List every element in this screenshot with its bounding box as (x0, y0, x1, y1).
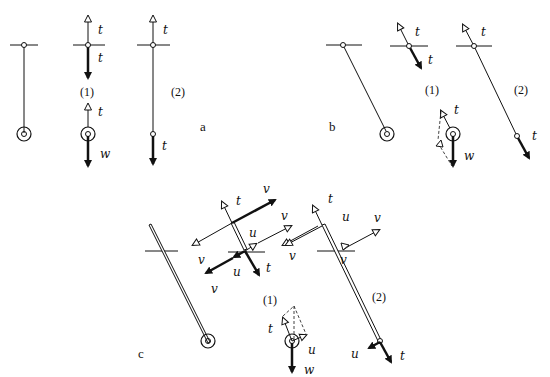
label-t: t (400, 350, 405, 362)
label-v: v (198, 254, 205, 266)
label-t: t (266, 262, 271, 274)
sub-label-c2: (2) (372, 291, 386, 303)
label-u: u (342, 211, 350, 223)
panel-label-a: a (200, 120, 206, 133)
label-w: w (304, 364, 314, 376)
label-t: t (163, 24, 168, 36)
label-t: t (162, 140, 167, 152)
label-v: v (263, 183, 270, 195)
diagram-canvas (0, 0, 550, 377)
label-t: t (481, 26, 486, 38)
label-w: w (464, 150, 474, 162)
sub-label-a2: (2) (171, 86, 185, 98)
label-v: v (289, 250, 296, 262)
label-t: t (454, 104, 459, 116)
label-v: v (340, 254, 347, 266)
pendulum-force-diagram: t t (1) t w t (2) t a b t t (1) t w t (2… (0, 0, 550, 377)
panel-label-c: c (138, 347, 144, 360)
label-u: u (351, 348, 359, 360)
label-w: w (100, 148, 110, 160)
sub-label-b2: (2) (514, 84, 528, 96)
label-u: u (249, 227, 257, 239)
label-u: u (308, 344, 316, 356)
label-t: t (98, 106, 103, 118)
label-u: u (233, 266, 241, 278)
label-t: t (415, 26, 420, 38)
label-v: v (211, 283, 218, 295)
label-t: t (532, 130, 537, 142)
label-t: t (236, 195, 241, 207)
label-t: t (428, 54, 433, 66)
label-t: t (268, 323, 273, 335)
sub-label-c1: (1) (263, 294, 277, 306)
label-t: t (98, 52, 103, 64)
label-t: t (98, 24, 103, 36)
sub-label-a1: (1) (80, 86, 94, 98)
sub-label-b1: (1) (425, 84, 439, 96)
label-v: v (281, 210, 288, 222)
label-t: t (328, 193, 333, 205)
panel-label-b: b (329, 120, 336, 133)
label-v: v (374, 212, 381, 224)
